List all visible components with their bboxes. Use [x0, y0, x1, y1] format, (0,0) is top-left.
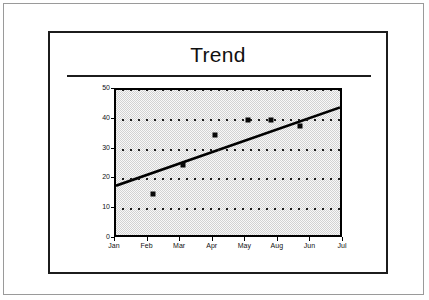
gridline — [116, 149, 340, 151]
y-axis-tick-label: 20 — [90, 173, 110, 181]
x-axis-tick-label: Mar — [173, 242, 185, 250]
y-axis-tick-mark — [111, 177, 115, 178]
plot-area — [114, 88, 342, 237]
data-point-marker — [268, 117, 273, 122]
x-axis-tick-mark — [277, 237, 278, 241]
x-axis-tick-label: Jun — [304, 242, 315, 250]
y-axis-tick-mark — [111, 207, 115, 208]
y-axis-tick-label: 10 — [90, 203, 110, 211]
gridline — [116, 178, 340, 180]
y-axis-tick-label: 0 — [90, 233, 110, 241]
x-axis-tick-mark — [309, 237, 310, 241]
x-axis-tick-mark — [342, 237, 343, 241]
x-axis-tick-label: Aug — [271, 242, 283, 250]
y-axis-tick-label: 50 — [90, 84, 110, 92]
x-axis-tick-mark — [244, 237, 245, 241]
x-axis-tick-mark — [147, 237, 148, 241]
x-axis-tick-label: Feb — [141, 242, 153, 250]
x-axis-tick-mark — [114, 237, 115, 241]
data-point-marker — [245, 117, 250, 122]
gridline — [116, 208, 340, 210]
data-point-marker — [180, 162, 185, 167]
page-title: Trend — [50, 42, 386, 67]
y-axis-tick-label: 30 — [90, 144, 110, 152]
x-axis-tick-label: May — [238, 242, 251, 250]
data-point-marker — [298, 123, 303, 128]
gridline — [116, 89, 340, 91]
slide: Trend 01020304050 JanFebMarAprMayAugJunJ… — [48, 31, 388, 274]
y-axis-tick-mark — [111, 88, 115, 89]
title-divider — [67, 75, 371, 77]
trend-chart: 01020304050 JanFebMarAprMayAugJunJul — [70, 81, 370, 266]
y-axis-labels: 01020304050 — [88, 88, 110, 237]
x-axis-tick-mark — [179, 237, 180, 241]
x-axis-tick-label: Apr — [206, 242, 217, 250]
data-point-marker — [213, 132, 218, 137]
x-axis-tick-label: Jul — [338, 242, 347, 250]
data-point-marker — [151, 192, 156, 197]
gridline — [116, 119, 340, 121]
y-axis-tick-label: 40 — [90, 114, 110, 122]
page-frame: Trend 01020304050 JanFebMarAprMayAugJunJ… — [3, 3, 424, 295]
y-axis-tick-mark — [111, 118, 115, 119]
x-axis-labels: JanFebMarAprMayAugJunJul — [114, 242, 342, 254]
x-axis-tick-label: Jan — [108, 242, 119, 250]
x-axis-tick-mark — [212, 237, 213, 241]
trend-line — [116, 90, 340, 235]
y-axis-tick-mark — [111, 148, 115, 149]
